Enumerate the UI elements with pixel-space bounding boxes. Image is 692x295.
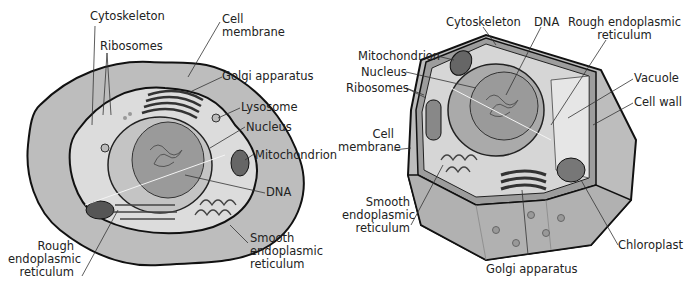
label-rough-er: Rough endoplasmic reticulum — [568, 16, 681, 42]
label-golgi-apparatus: Golgi apparatus — [222, 70, 314, 83]
label-lysosome: Lysosome — [241, 101, 298, 114]
label-dna: DNA — [266, 186, 291, 199]
label-mitochondrion: Mitochondrion — [358, 50, 440, 63]
animal-cell-panel: Cytoskeleton Ribosomes Cell membrane Gol… — [0, 0, 346, 295]
label-rough-er: Rough endoplasmic reticulum — [8, 240, 74, 279]
label-nucleus: Nucleus — [361, 66, 407, 79]
label-ribosomes: Ribosomes — [100, 40, 163, 53]
label-cell-wall: Cell wall — [634, 96, 682, 109]
label-dna: DNA — [534, 16, 559, 29]
label-cell-membrane: Cell membrane — [222, 13, 285, 39]
label-cell-membrane: Cell membrane — [338, 128, 394, 154]
label-smooth-er: Smooth endoplasmic reticulum — [342, 196, 410, 235]
label-ribosomes: Ribosomes — [346, 82, 409, 95]
label-mitochondrion: Mitochondrion — [255, 149, 337, 162]
label-smooth-er: Smooth endoplasmic reticulum — [250, 232, 323, 271]
label-nucleus: Nucleus — [246, 121, 292, 134]
label-cytoskeleton: Cytoskeleton — [446, 16, 521, 29]
plant-cell-panel: Cytoskeleton DNA Rough endoplasmic retic… — [346, 0, 692, 295]
label-chloroplast: Chloroplast — [618, 239, 683, 252]
label-cytoskeleton: Cytoskeleton — [90, 10, 165, 23]
label-golgi-apparatus: Golgi apparatus — [486, 263, 578, 276]
label-vacuole: Vacuole — [634, 72, 679, 85]
